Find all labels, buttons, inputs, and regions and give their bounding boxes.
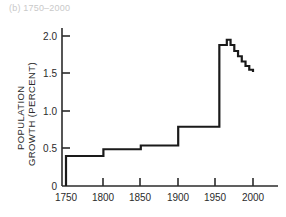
- y-axis-title-line1: POPULATION: [15, 85, 26, 150]
- y-axis-ticks: [62, 36, 70, 148]
- y-ticklabel-0: 0: [51, 181, 57, 192]
- x-axis-ticks: [66, 178, 253, 186]
- y-ticklabel-0-5: 0.5: [43, 143, 57, 154]
- y-ticklabel-2-0: 2.0: [43, 31, 57, 42]
- x-ticklabel-1900: 1900: [167, 192, 190, 203]
- x-ticklabel-2000: 2000: [242, 192, 265, 203]
- chart-page: (b) 1750–2000 2.0 1.5 1.0 0.5 0: [0, 0, 286, 217]
- y-ticklabel-1-5: 1.5: [43, 68, 57, 79]
- y-axis-tick-labels: 2.0 1.5 1.0 0.5 0: [43, 31, 57, 192]
- axis-lines: [62, 28, 278, 186]
- x-axis-tick-labels: 1750 1800 1850 1900 1950 2000: [55, 192, 265, 203]
- x-ticklabel-1850: 1850: [129, 192, 152, 203]
- population-growth-chart: 2.0 1.5 1.0 0.5 0 1750 1800 1850 1900 19…: [0, 0, 286, 217]
- y-axis-title-line2: GROWTH (PERCENT): [26, 62, 37, 166]
- x-ticklabel-1800: 1800: [92, 192, 115, 203]
- y-ticklabel-1-0: 1.0: [43, 106, 57, 117]
- x-ticklabel-1750: 1750: [55, 192, 78, 203]
- y-axis-title: POPULATION GROWTH (PERCENT): [15, 62, 37, 166]
- x-ticklabel-1950: 1950: [204, 192, 227, 203]
- growth-step-line: [66, 40, 253, 186]
